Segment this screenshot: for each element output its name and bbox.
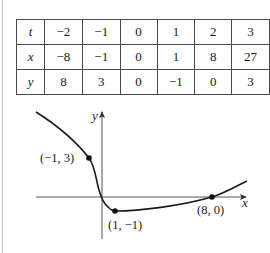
- table-cell: −8: [45, 45, 83, 70]
- point-marker-8-0: [209, 194, 215, 200]
- table-cell: 0: [195, 70, 232, 95]
- table-cell: 0: [120, 20, 157, 45]
- table-cell: −1: [157, 70, 195, 95]
- point-marker-1-neg1: [112, 208, 118, 214]
- table-cell: 1: [157, 45, 195, 70]
- table-cell: 3: [232, 70, 270, 95]
- table-cell: 0: [120, 45, 157, 70]
- row-header-y: y: [17, 70, 45, 95]
- point-marker-neg1-3: [86, 155, 92, 161]
- table-cell: 2: [195, 20, 232, 45]
- parametric-curve-graph: (−1, 3) (1, −1) (8, 0) x y: [0, 100, 270, 253]
- table-cell: 8: [45, 70, 83, 95]
- parametric-values-table: t −2 −1 0 1 2 3 x −8 −1 0 1 8 27 y 8 3 0…: [16, 19, 270, 95]
- row-header-x: x: [17, 45, 45, 70]
- table-cell: −2: [45, 20, 83, 45]
- y-axis-label: y: [90, 108, 98, 123]
- point-label-1-neg1: (1, −1): [108, 218, 142, 232]
- table-cell: −1: [82, 45, 120, 70]
- table-row-y: y 8 3 0 −1 0 3: [17, 70, 270, 95]
- table-cell: 0: [120, 70, 157, 95]
- point-label-8-0: (8, 0): [197, 203, 224, 217]
- table-row-t: t −2 −1 0 1 2 3: [17, 20, 270, 45]
- table-row-x: x −8 −1 0 1 8 27: [17, 45, 270, 70]
- table-cell: 27: [232, 45, 270, 70]
- table-cell: −1: [82, 20, 120, 45]
- table-cell: 8: [195, 45, 232, 70]
- row-header-t: t: [17, 20, 45, 45]
- table-cell: 3: [82, 70, 120, 95]
- table-cell: 1: [157, 20, 195, 45]
- x-axis-label: x: [241, 195, 248, 210]
- point-label-neg1-3: (−1, 3): [40, 151, 74, 165]
- table-cell: 3: [232, 20, 270, 45]
